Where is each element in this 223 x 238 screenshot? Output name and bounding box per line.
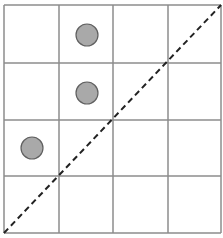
point-1-circle <box>76 24 98 46</box>
point-3-circle <box>21 137 43 159</box>
grid-diagram <box>0 0 223 238</box>
point-2-circle <box>76 82 98 104</box>
